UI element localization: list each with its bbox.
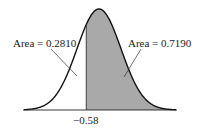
cutoff-tick-label: −0.58 bbox=[73, 115, 98, 126]
left-area-label: Area = 0.2810 bbox=[13, 38, 76, 49]
normal-curve-figure bbox=[0, 0, 199, 133]
shaded-area-right bbox=[86, 9, 176, 110]
left-leader-line bbox=[51, 49, 77, 76]
right-area-label: Area = 0.7190 bbox=[128, 38, 191, 49]
